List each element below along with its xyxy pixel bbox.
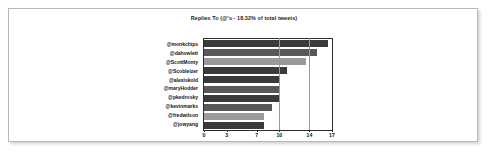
y-axis-label: @monkchips [109,41,201,48]
bar-row [204,49,332,56]
bar-row [204,113,332,120]
y-axis-label: @Scobleizer [109,68,201,75]
bar [204,76,279,83]
gridline [309,38,310,131]
y-axis-label: @ScottMonty [109,59,201,66]
bar [204,58,306,65]
x-tick-label: 7 [255,132,258,138]
y-axis-label: @dahowlett [109,50,201,57]
gridline [279,38,280,131]
bar-row [204,122,332,129]
bar-row [204,58,332,65]
y-axis-label: @jowyang [109,121,201,128]
x-tick-label: 3 [225,132,228,138]
bar [204,67,287,74]
bar-chart: Replies To (@'s - 18.32% of total tweets… [9,9,479,143]
bar-row [204,40,332,47]
x-tick-label: 0 [203,132,206,138]
plot-area [203,38,333,131]
bar [204,122,264,129]
bar-row [204,104,332,111]
bar-row [204,67,332,74]
bar [204,95,279,102]
bar-row [204,95,332,102]
y-axis-labels: @monkchips@dahowlett@ScottMonty@Scobleiz… [109,39,201,130]
x-tick-label: 14 [307,132,313,138]
y-axis-label: @alexiskold [109,77,201,84]
y-axis-label: @pkedrosky [109,94,201,101]
bar [204,113,264,120]
bar [204,104,272,111]
y-axis-label: @fredwilson [109,112,201,119]
bar-row [204,76,332,83]
y-axis-label: @kevinmarks [109,103,201,110]
bar [204,86,279,93]
x-axis-ticks: 037101417 [203,132,333,142]
bar-row [204,86,332,93]
y-axis-label: @maryHodder [109,85,201,92]
chart-title: Replies To (@'s - 18.32% of total tweets… [9,15,479,21]
chart-card: Replies To (@'s - 18.32% of total tweets… [8,8,478,142]
x-tick-label: 17 [329,132,335,138]
screenshot-root: Replies To (@'s - 18.32% of total tweets… [0,0,497,157]
bar-series [204,39,332,130]
bar [204,49,317,56]
x-tick-label: 10 [276,132,282,138]
